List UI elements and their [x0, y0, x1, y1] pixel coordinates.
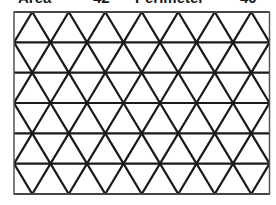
triangle-grid	[0, 0, 276, 205]
